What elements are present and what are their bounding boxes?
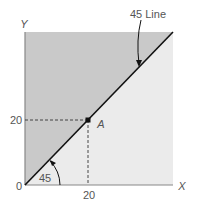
point-a-marker [86,118,91,123]
origin-label: 0 [16,180,22,192]
y-axis-label: Y [20,18,28,30]
forty-five-degree-diagram: Y X 0 20 20 45 Line A 45 [0,0,198,209]
x-axis-label: X [177,180,186,192]
point-label: A [96,118,104,130]
y-tick-label: 20 [10,114,22,126]
line-label: 45 Line [130,8,166,20]
x-tick-label: 20 [83,189,95,201]
angle-label: 45 [39,172,51,184]
